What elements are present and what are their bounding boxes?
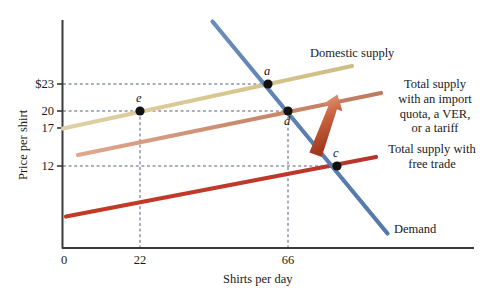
point-label-c: c (333, 146, 339, 161)
point-label-d: d (284, 114, 290, 129)
series-label-domestic-supply: Domestic supply (310, 46, 394, 61)
series-label-demand: Demand (394, 222, 436, 237)
point-label-a: a (264, 64, 270, 79)
series-label-quota-supply: Total supply with an import quota, a VER… (377, 77, 493, 136)
x-tick-label-0: 0 (50, 253, 78, 268)
quota-label-line-1: Total supply (377, 77, 493, 92)
y-tick-label-17: 17 (6, 121, 54, 136)
series-label-free-trade-supply: Total supply with free trade (371, 142, 493, 172)
point-label-e: e (136, 91, 142, 106)
series-domestic-supply (63, 66, 352, 129)
quota-label-line-4: or a tariff (377, 121, 493, 136)
x-tick-label-66: 66 (274, 253, 302, 268)
y-tick-label-12: 12 (6, 159, 54, 174)
point-markers (135, 79, 341, 170)
free-trade-label-line-2: free trade (371, 157, 493, 172)
marker-point-a (263, 79, 272, 88)
y-tick-label-23: $23 (6, 77, 54, 92)
figure-container: Price per shirt $23 20 17 12 0 22 66 Shi… (0, 0, 497, 291)
marker-point-c (332, 161, 341, 170)
marker-point-e (135, 106, 144, 115)
quota-label-line-2: with an import (377, 92, 493, 107)
free-trade-label-line-1: Total supply with (371, 142, 493, 157)
quota-label-line-3: quota, a VER, (377, 107, 493, 122)
y-tick-label-20: 20 (6, 104, 54, 119)
x-tick-label-22: 22 (126, 253, 154, 268)
x-axis-title: Shirts per day (223, 272, 292, 287)
